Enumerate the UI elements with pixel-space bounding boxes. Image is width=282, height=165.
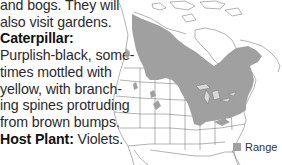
- map-legend: Range: [233, 141, 277, 153]
- range-swatch: [233, 143, 241, 151]
- legend-label: Range: [245, 141, 277, 153]
- host-plant-heading: Host Plant:: [0, 131, 74, 147]
